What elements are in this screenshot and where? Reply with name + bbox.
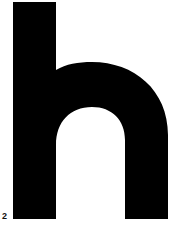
glyph-figure: 2: [0, 0, 177, 225]
letter-h-glyph: [0, 0, 177, 225]
figure-number-label: 2: [2, 211, 7, 221]
